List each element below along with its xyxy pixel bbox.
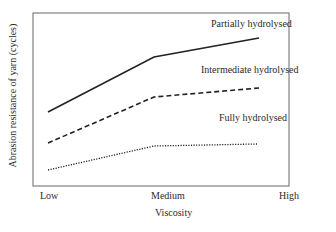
series-label-fully: Fully hydrolysed [219, 112, 287, 123]
series-label-intermediate: Intermediate hydrolysed [201, 64, 298, 75]
series-label-partially: Partially hydrolysed [211, 18, 292, 29]
line-partially-hydrolysed [48, 38, 259, 112]
x-axis-label: Viscosity [155, 207, 192, 218]
x-tick-low: Low [40, 190, 58, 201]
line-fully-hydrolysed [48, 144, 257, 170]
y-axis-label: Abrasion resistance of yarn (cycles) [7, 28, 18, 168]
x-tick-high: High [279, 190, 299, 201]
x-tick-medium: Medium [151, 190, 185, 201]
